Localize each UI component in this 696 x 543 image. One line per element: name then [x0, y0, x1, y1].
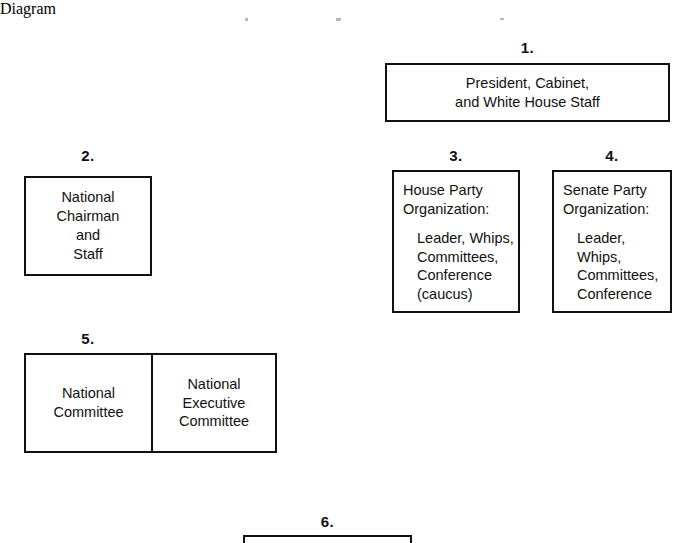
- node-3-heading-line-1: House Party: [403, 181, 518, 200]
- node-2-text: National Chairman and Staff: [26, 188, 150, 263]
- node-1-text: President, Cabinet, and White House Staf…: [387, 74, 668, 112]
- node-4-list-item-3: Conference: [577, 285, 670, 304]
- node-3-list-item-3: Conference: [417, 266, 518, 285]
- node-5-cell-1-line-1: National: [26, 384, 151, 403]
- node-4-list-item-2: Committees,: [577, 266, 670, 285]
- node-3-list-item-1: Leader, Whips,: [417, 229, 518, 248]
- node-3-heading-line-2: Organization:: [403, 200, 518, 219]
- node-2-line-2: Chairman: [26, 207, 150, 226]
- node-5-national-committees: National Committee National Executive Co…: [24, 353, 277, 453]
- node-4-label: 4.: [552, 148, 672, 163]
- node-5-cell-1-text: National Committee: [26, 384, 151, 422]
- cropped-text-remnant: [0, 18, 696, 22]
- node-4-senate-party-organization[interactable]: Senate Party Organization: Leader, Whips…: [552, 170, 672, 313]
- node-4-heading: Senate Party Organization:: [563, 181, 670, 218]
- node-2-label: 2.: [24, 148, 152, 163]
- node-5-cell-2-text: National Executive Committee: [153, 375, 275, 432]
- node-1-line-1: President, Cabinet,: [387, 74, 668, 93]
- node-5-cell-2-line-3: Committee: [153, 412, 275, 431]
- node-4-list-item-1: Leader, Whips,: [577, 229, 670, 266]
- node-2-line-1: National: [26, 188, 150, 207]
- node-5-cell-national-executive-committee[interactable]: National Executive Committee: [153, 355, 275, 451]
- node-3-list-item-4: (caucus): [417, 285, 518, 304]
- node-4-heading-line-1: Senate Party: [563, 181, 670, 200]
- node-6-clipped-box[interactable]: [243, 535, 412, 543]
- node-2-line-4: Staff: [26, 245, 150, 264]
- node-3-label: 3.: [392, 148, 520, 163]
- node-2-line-3: and: [26, 226, 150, 245]
- node-3-house-party-organization[interactable]: House Party Organization: Leader, Whips,…: [392, 170, 520, 313]
- node-4-list: Leader, Whips, Committees, Conference: [563, 229, 670, 303]
- node-4-heading-line-2: Organization:: [563, 200, 670, 219]
- node-3-list: Leader, Whips, Committees, Conference (c…: [403, 229, 518, 303]
- node-1-label: 1.: [385, 40, 670, 55]
- node-5-cell-1-line-2: Committee: [26, 403, 151, 422]
- node-1-president-cabinet-white-house-staff[interactable]: President, Cabinet, and White House Staf…: [385, 63, 670, 122]
- org-chart-page: 1. President, Cabinet, and White House S…: [0, 18, 696, 543]
- node-3-list-item-2: Committees,: [417, 248, 518, 267]
- node-5-cell-national-committee[interactable]: National Committee: [26, 355, 153, 451]
- node-3-heading: House Party Organization:: [403, 181, 518, 218]
- node-5-cell-2-line-1: National: [153, 375, 275, 394]
- node-1-line-2: and White House Staff: [387, 93, 668, 112]
- node-5-label: 5.: [24, 331, 152, 346]
- node-5-cell-2-line-2: Executive: [153, 394, 275, 413]
- node-6-label: 6.: [243, 514, 412, 529]
- node-2-national-chairman-and-staff[interactable]: National Chairman and Staff: [24, 176, 152, 276]
